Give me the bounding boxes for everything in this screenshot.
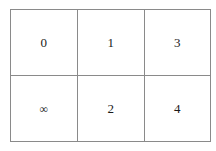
table-cell-r0c1: 1 [78, 10, 145, 76]
cell-value-r0c2: 3 [174, 36, 181, 49]
cell-value-r1c2: 4 [174, 102, 181, 115]
table-row: 0 1 3 [11, 10, 211, 76]
table-cell-r1c0: ∞ [11, 76, 78, 142]
table-cell-r0c0: 0 [11, 10, 78, 76]
infinity-symbol: ∞ [40, 103, 49, 115]
table-body: 0 1 3 ∞ 2 4 [11, 10, 211, 142]
table-row: ∞ 2 4 [11, 76, 211, 142]
page-canvas: 0 1 3 ∞ 2 4 [0, 0, 216, 151]
table-cell-r1c2: 4 [145, 76, 211, 142]
cell-value-r1c1: 2 [108, 102, 115, 115]
number-grid-table: 0 1 3 ∞ 2 4 [10, 9, 211, 142]
table-cell-r0c2: 3 [145, 10, 211, 76]
table-cell-r1c1: 2 [78, 76, 145, 142]
cell-value-r0c1: 1 [108, 36, 115, 49]
cell-value-r0c0: 0 [41, 36, 48, 49]
